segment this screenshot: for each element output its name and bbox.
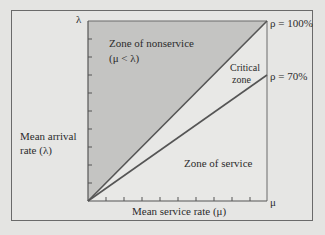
queue-utilization-diagram bbox=[0, 0, 325, 235]
x-axis-label: Mean service rate (μ) bbox=[132, 205, 226, 218]
y-axis-label-line2: rate (λ) bbox=[20, 144, 52, 157]
rho-70-label: ρ = 70% bbox=[270, 70, 307, 83]
zone-service-label: Zone of service bbox=[184, 157, 252, 170]
x-axis-symbol: μ bbox=[270, 196, 276, 209]
zone-nonservice-label-line2: (μ < λ) bbox=[109, 52, 139, 65]
critical-zone-label-line1: Critical bbox=[230, 62, 260, 74]
critical-zone-label-line2: zone bbox=[232, 74, 251, 86]
rho-100-label: ρ = 100% bbox=[270, 17, 313, 30]
y-axis-label-line1: Mean arrival bbox=[20, 130, 77, 143]
y-axis-symbol: λ bbox=[76, 13, 81, 26]
zone-nonservice-label-line1: Zone of nonservice bbox=[109, 37, 194, 50]
